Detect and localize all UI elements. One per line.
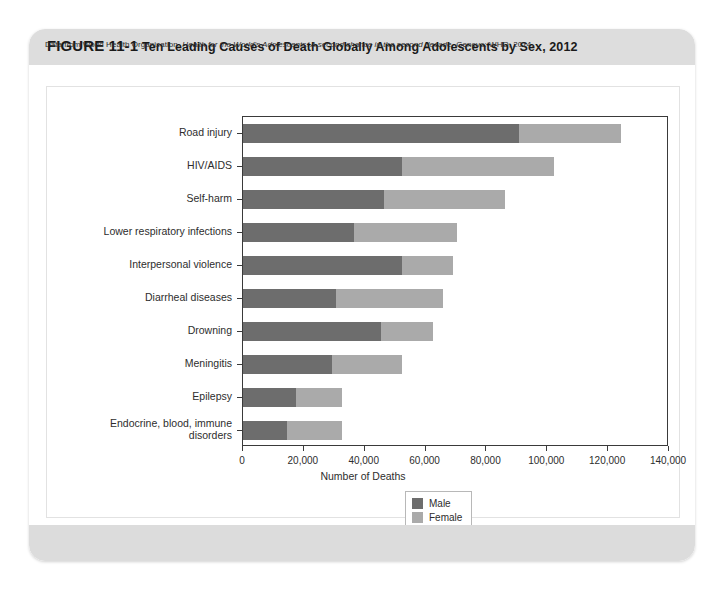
axes-frame [242, 116, 668, 446]
source-prefix: Data from World Health Organization. [45, 40, 182, 49]
category-label: Interpersonal violence [47, 258, 232, 271]
x-axis-tick [242, 446, 243, 451]
category-label: Road injury [47, 126, 232, 139]
bar-segment-male [243, 388, 296, 407]
x-axis-tick-label: 80,000 [470, 455, 501, 466]
x-axis-tick-label: 100,000 [528, 455, 564, 466]
x-axis-tick-label: 40,000 [348, 455, 379, 466]
table-row [243, 315, 667, 348]
x-axis-tick-label: 120,000 [589, 455, 625, 466]
x-axis-tick [303, 446, 304, 451]
bar-segment-female [402, 256, 453, 275]
bar-segment-male [243, 421, 287, 440]
bar-segment-male [243, 256, 402, 275]
x-axis-tick-label: 0 [239, 455, 245, 466]
stacked-bar [243, 223, 457, 242]
table-row [243, 249, 667, 282]
stacked-bar [243, 421, 342, 440]
bar-segment-female [519, 124, 622, 143]
bar-segment-male [243, 355, 332, 374]
x-axis-tick [668, 446, 669, 451]
stacked-bar [243, 256, 453, 275]
bar-rows [243, 117, 667, 445]
table-row [243, 348, 667, 381]
category-label: Diarrheal diseases [47, 291, 232, 304]
category-tick [237, 133, 242, 134]
x-axis-tick [425, 446, 426, 451]
bar-segment-male [243, 289, 336, 308]
stacked-bar [243, 289, 443, 308]
table-row [243, 117, 667, 150]
x-axis-tick-label: 60,000 [409, 455, 440, 466]
category-tick [237, 364, 242, 365]
category-label: HIV/AIDS [47, 159, 232, 172]
bar-segment-female [402, 157, 554, 176]
category-label: Drowning [47, 324, 232, 337]
bar-segment-female [384, 190, 505, 209]
bar-segment-female [296, 388, 342, 407]
plot-panel: Road injuryHIV/AIDSSelf-harmLower respir… [46, 86, 680, 518]
legend-item-male: Male [412, 496, 462, 510]
x-axis-tick-label: 20,000 [288, 455, 319, 466]
legend-item-female: Female [412, 510, 462, 524]
category-label: Epilepsy [47, 390, 232, 403]
category-label: Endocrine, blood, immune disorders [47, 417, 232, 442]
bar-segment-male [243, 223, 354, 242]
category-label: Self-harm [47, 192, 232, 205]
category-tick [237, 166, 242, 167]
x-axis-title: Number of Deaths [47, 470, 679, 482]
table-row [243, 282, 667, 315]
x-axis-tick [485, 446, 486, 451]
bar-segment-female [381, 322, 433, 341]
stacked-bar [243, 322, 433, 341]
category-tick [237, 298, 242, 299]
category-tick [237, 199, 242, 200]
source-title: Health for the World's Adolescents: A se… [182, 40, 454, 49]
category-tick [237, 232, 242, 233]
table-row [243, 183, 667, 216]
category-label: Meningitis [47, 357, 232, 370]
source-suffix: Geneva: WHO; 2014. [454, 40, 534, 49]
legend-label-male: Male [429, 498, 451, 509]
category-tick [237, 331, 242, 332]
x-axis-tick [364, 446, 365, 451]
legend: Male Female [405, 491, 472, 529]
stacked-bar [243, 124, 621, 143]
x-axis-tick [546, 446, 547, 451]
x-axis-tick-label: 140,000 [650, 455, 686, 466]
bar-segment-female [332, 355, 401, 374]
figure-footer-band [29, 525, 695, 561]
category-tick [237, 430, 242, 431]
stacked-bar [243, 388, 342, 407]
bar-segment-female [336, 289, 443, 308]
figure-card: FIGURE 11-1 Ten Leading Causes of Death … [29, 29, 695, 561]
bar-segment-male [243, 322, 381, 341]
legend-swatch-male [412, 498, 423, 509]
table-row [243, 216, 667, 249]
stacked-bar [243, 190, 505, 209]
bar-segment-male [243, 124, 519, 143]
source-note: Data from World Health Organization. Hea… [45, 40, 534, 49]
category-tick [237, 397, 242, 398]
table-row [243, 414, 667, 447]
legend-label-female: Female [429, 512, 462, 523]
stacked-bar [243, 157, 554, 176]
bar-segment-female [287, 421, 342, 440]
stacked-bar [243, 355, 402, 374]
category-label: Lower respiratory infections [47, 225, 232, 238]
bar-segment-male [243, 190, 384, 209]
table-row [243, 150, 667, 183]
x-axis-tick [607, 446, 608, 451]
table-row [243, 381, 667, 414]
legend-swatch-female [412, 512, 423, 523]
category-tick [237, 265, 242, 266]
bar-segment-female [354, 223, 457, 242]
bar-segment-male [243, 157, 402, 176]
